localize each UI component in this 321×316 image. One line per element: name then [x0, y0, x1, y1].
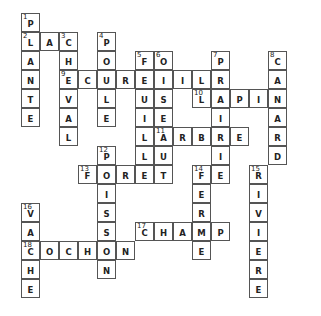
crossword-cell[interactable]: N — [116, 241, 135, 260]
cell-letter: E — [155, 114, 172, 124]
cell-letter: V — [22, 209, 39, 219]
cell-letter: L — [98, 95, 115, 105]
crossword-cell[interactable]: V — [249, 203, 268, 222]
crossword-cell[interactable]: N — [21, 70, 40, 89]
crossword-cell[interactable]: A — [21, 51, 40, 70]
crossword-cell[interactable]: E — [21, 108, 40, 127]
cell-letter: R — [193, 209, 210, 219]
crossword-cell[interactable]: 15R — [249, 165, 268, 184]
crossword-cell[interactable]: A — [211, 89, 230, 108]
crossword-cell[interactable]: C — [59, 241, 78, 260]
crossword-cell[interactable]: R — [211, 127, 230, 146]
crossword-cell[interactable]: H — [78, 241, 97, 260]
crossword-cell[interactable]: U — [97, 70, 116, 89]
crossword-cell[interactable]: I — [135, 108, 154, 127]
crossword-cell[interactable]: B — [192, 127, 211, 146]
crossword-cell[interactable]: T — [154, 165, 173, 184]
crossword-cell[interactable]: U — [135, 89, 154, 108]
crossword-cell[interactable]: H — [59, 51, 78, 70]
crossword-cell[interactable]: 4P — [97, 32, 116, 51]
crossword-cell[interactable]: 1P — [21, 13, 40, 32]
crossword-cell[interactable]: I — [249, 89, 268, 108]
crossword-cell[interactable]: D — [268, 146, 287, 165]
crossword-cell[interactable]: 6O — [154, 51, 173, 70]
crossword-cell[interactable]: I — [249, 222, 268, 241]
crossword-cell[interactable]: E — [21, 279, 40, 298]
crossword-cell[interactable]: N — [97, 260, 116, 279]
crossword-cell[interactable]: I — [97, 184, 116, 203]
crossword-cell[interactable]: E — [249, 241, 268, 260]
crossword-cell[interactable]: E — [249, 279, 268, 298]
crossword-cell[interactable]: L — [135, 127, 154, 146]
crossword-cell[interactable]: 12P — [97, 146, 116, 165]
cell-letter: L — [136, 152, 153, 162]
crossword-cell[interactable]: E — [230, 127, 249, 146]
crossword-cell[interactable]: 14F — [192, 165, 211, 184]
crossword-cell[interactable]: I — [211, 146, 230, 165]
crossword-cell[interactable]: A — [268, 70, 287, 89]
crossword-cell[interactable]: R — [116, 70, 135, 89]
crossword-cell[interactable]: S — [154, 89, 173, 108]
crossword-cell[interactable]: E — [154, 108, 173, 127]
crossword-cell[interactable]: 10L — [192, 89, 211, 108]
crossword-cell[interactable]: 18C — [21, 241, 40, 260]
crossword-cell[interactable]: C — [78, 70, 97, 89]
crossword-cell[interactable]: R — [192, 203, 211, 222]
crossword-cell[interactable]: E — [192, 241, 211, 260]
crossword-cell[interactable]: E — [211, 165, 230, 184]
crossword-cell[interactable]: 8C — [268, 51, 287, 70]
crossword-cell[interactable]: I — [173, 70, 192, 89]
crossword-cell[interactable]: L — [59, 127, 78, 146]
crossword-cell[interactable]: O — [97, 241, 116, 260]
cell-letter: E — [136, 76, 153, 86]
crossword-cell[interactable]: E — [135, 70, 154, 89]
crossword-cell[interactable]: 9E — [59, 70, 78, 89]
crossword-cell[interactable]: I — [211, 108, 230, 127]
crossword-cell[interactable]: A — [40, 32, 59, 51]
crossword-cell[interactable]: 11A — [154, 127, 173, 146]
crossword-cell[interactable]: 5F — [135, 51, 154, 70]
crossword-cell[interactable]: R — [249, 260, 268, 279]
crossword-cell[interactable]: 3C — [59, 32, 78, 51]
crossword-cell[interactable]: R — [173, 127, 192, 146]
crossword-cell[interactable]: 16V — [21, 203, 40, 222]
crossword-cell[interactable]: R — [268, 127, 287, 146]
crossword-cell[interactable]: 17C — [135, 222, 154, 241]
crossword-cell[interactable]: A — [21, 222, 40, 241]
crossword-cell[interactable]: H — [21, 260, 40, 279]
crossword-cell[interactable]: M — [192, 222, 211, 241]
crossword-cell[interactable]: R — [116, 165, 135, 184]
crossword-cell[interactable]: S — [97, 222, 116, 241]
cell-letter: R — [269, 133, 286, 143]
crossword-cell[interactable]: L — [97, 89, 116, 108]
crossword-cell[interactable]: V — [59, 89, 78, 108]
crossword-cell[interactable]: E — [97, 108, 116, 127]
cell-letter: S — [98, 228, 115, 238]
crossword-cell[interactable]: O — [97, 165, 116, 184]
crossword-cell[interactable]: E — [192, 184, 211, 203]
crossword-cell[interactable]: H — [154, 222, 173, 241]
crossword-cell[interactable]: O — [97, 51, 116, 70]
cell-letter: O — [98, 171, 115, 181]
crossword-cell[interactable]: I — [249, 184, 268, 203]
crossword-cell[interactable]: A — [173, 222, 192, 241]
crossword-cell[interactable]: L — [192, 70, 211, 89]
crossword-cell[interactable]: 7P — [211, 51, 230, 70]
crossword-cell[interactable]: P — [230, 89, 249, 108]
crossword-cell[interactable]: 13F — [78, 165, 97, 184]
crossword-cell[interactable]: I — [154, 70, 173, 89]
cell-letter: U — [136, 95, 153, 105]
crossword-cell[interactable]: L — [135, 146, 154, 165]
crossword-cell[interactable]: N — [268, 89, 287, 108]
crossword-cell[interactable]: P — [211, 222, 230, 241]
crossword-cell[interactable]: A — [268, 108, 287, 127]
cell-letter: A — [269, 114, 286, 124]
crossword-cell[interactable]: S — [97, 203, 116, 222]
crossword-cell[interactable]: O — [40, 241, 59, 260]
crossword-cell[interactable]: 2L — [21, 32, 40, 51]
crossword-cell[interactable]: U — [154, 146, 173, 165]
crossword-cell[interactable]: A — [59, 108, 78, 127]
crossword-cell[interactable]: T — [21, 89, 40, 108]
crossword-cell[interactable]: R — [211, 70, 230, 89]
crossword-cell[interactable]: E — [135, 165, 154, 184]
